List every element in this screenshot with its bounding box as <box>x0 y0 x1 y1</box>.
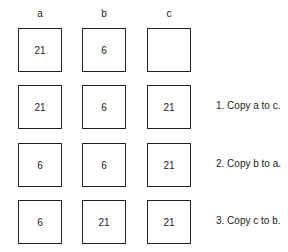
cell-b-step2: 6 <box>82 143 126 187</box>
cell-c-step2: 21 <box>147 143 191 187</box>
cell-c-step3: 21 <box>147 200 191 244</box>
column-header-b: b <box>82 8 126 19</box>
column-header-a: a <box>18 8 62 19</box>
cell-a-step1: 21 <box>18 85 62 129</box>
cell-a-step3: 6 <box>18 200 62 244</box>
cell-a-step2: 6 <box>18 143 62 187</box>
cell-c-initial <box>147 28 191 72</box>
step-3-label: 3. Copy c to b. <box>216 215 280 227</box>
step-2-label: 2. Copy b to a. <box>216 158 281 170</box>
column-header-c: c <box>147 8 191 19</box>
cell-b-initial: 6 <box>82 28 126 72</box>
cell-b-step1: 6 <box>82 85 126 129</box>
step-1-label: 1. Copy a to c. <box>216 100 280 112</box>
cell-c-step1: 21 <box>147 85 191 129</box>
cell-b-step3: 21 <box>82 200 126 244</box>
cell-a-initial: 21 <box>18 28 62 72</box>
